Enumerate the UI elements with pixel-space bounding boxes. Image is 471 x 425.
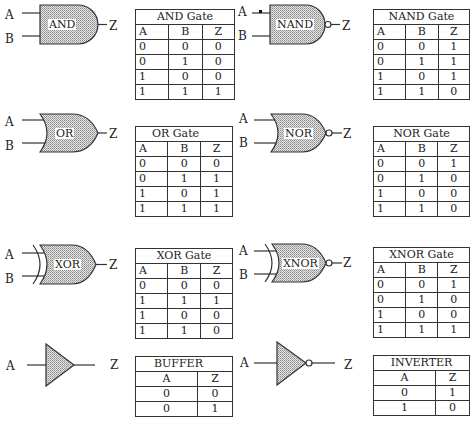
table-title: OR Gate — [136, 127, 233, 142]
table-row: 01 — [374, 386, 470, 401]
table-row: 10 — [374, 401, 470, 416]
table-title: INVERTER — [374, 356, 470, 371]
header-a: A — [136, 25, 169, 40]
table-row: 010 — [136, 55, 235, 70]
table-row: 110 — [374, 85, 470, 100]
table-row: 010 — [374, 172, 470, 187]
table-title: NOR Gate — [374, 127, 470, 142]
input-a-label: A — [238, 6, 247, 18]
and-truth-table: AND Gate ABZ 000 010 100 111 — [135, 9, 235, 100]
table-row: 01 — [136, 402, 233, 417]
table-row: 111 — [374, 323, 470, 338]
table-title: XNOR Gate — [374, 248, 470, 263]
input-a-label: A — [6, 360, 15, 372]
output-z-label: Z — [344, 359, 352, 371]
nand-gate-symbol: A B NAND Z — [230, 0, 350, 50]
output-z-label: Z — [109, 128, 117, 140]
gate-name: NAND — [276, 19, 314, 30]
buffer-gate-icon — [0, 340, 120, 390]
table-row: 00 — [136, 387, 233, 402]
table-title: NAND Gate — [374, 10, 470, 25]
gate-name: AND — [48, 19, 76, 30]
inverter-truth-table: INVERTER AZ 01 10 — [373, 355, 470, 416]
xor-gate-symbol: A B XOR Z — [0, 240, 120, 290]
buffer-truth-table: BUFFER AZ 00 01 — [135, 356, 233, 417]
gate-name: OR — [55, 128, 74, 139]
table-row: 000 — [136, 279, 233, 294]
table-row: 101 — [136, 187, 233, 202]
or-gate-symbol: A B OR Z — [0, 110, 120, 160]
table-row: 100 — [136, 309, 233, 324]
table-row: 000 — [136, 40, 235, 55]
table-title: BUFFER — [136, 357, 233, 372]
table-row: 111 — [136, 202, 233, 217]
output-z-label: Z — [109, 259, 117, 271]
input-a-label: A — [5, 249, 14, 261]
output-z-label: Z — [343, 257, 351, 269]
table-row: 110 — [136, 324, 233, 339]
gate-name: XNOR — [282, 258, 319, 269]
table-row: 110 — [374, 202, 470, 217]
table-row: 100 — [136, 70, 235, 85]
input-a-label: A — [5, 9, 14, 21]
buffer-gate-symbol: A Z — [0, 340, 120, 390]
nor-truth-table: NOR Gate ABZ 001 010 100 110 — [373, 126, 470, 217]
input-b-label: B — [239, 269, 248, 281]
input-a-label: A — [239, 245, 248, 257]
input-b-label: B — [238, 30, 247, 42]
inverter-gate-symbol: A Z — [230, 340, 355, 390]
output-z-label: Z — [110, 359, 118, 371]
output-z-label: Z — [343, 128, 351, 140]
table-row: 011 — [374, 55, 470, 70]
input-b-label: B — [5, 140, 14, 152]
table-title: XOR Gate — [136, 249, 233, 264]
table-row: 001 — [374, 40, 470, 55]
table-row: 010 — [374, 293, 470, 308]
table-row: 100 — [374, 308, 470, 323]
and-gate-symbol: A B AND Z — [0, 0, 120, 50]
xor-truth-table: XOR Gate ABZ 000 111 100 110 — [135, 248, 233, 339]
or-truth-table: OR Gate ABZ 000 011 101 111 — [135, 126, 233, 217]
nor-gate-symbol: A B NOR Z — [230, 110, 350, 160]
table-row: 001 — [374, 157, 470, 172]
table-row: 111 — [136, 85, 235, 100]
xnor-gate-symbol: A B XNOR Z — [230, 240, 350, 290]
input-a-label: A — [5, 116, 14, 128]
output-z-label: Z — [109, 20, 117, 32]
table-row: 000 — [136, 157, 233, 172]
table-row: 011 — [136, 172, 233, 187]
input-a-label: A — [239, 113, 248, 125]
xnor-truth-table: XNOR Gate ABZ 001 010 100 111 — [373, 247, 470, 338]
table-row: 001 — [374, 278, 470, 293]
gate-name: XOR — [54, 259, 81, 270]
table-row: 100 — [374, 187, 470, 202]
gate-name: NOR — [284, 128, 313, 139]
header-b: B — [169, 25, 202, 40]
input-b-label: B — [5, 33, 14, 45]
input-a-label: A — [240, 357, 249, 369]
table-title: AND Gate — [136, 10, 235, 25]
nand-truth-table: NAND Gate ABZ 001 011 101 110 — [373, 9, 470, 100]
input-b-label: B — [239, 137, 248, 149]
table-row: 111 — [136, 294, 233, 309]
input-b-label: B — [5, 273, 14, 285]
output-z-label: Z — [342, 20, 350, 32]
table-row: 101 — [374, 70, 470, 85]
